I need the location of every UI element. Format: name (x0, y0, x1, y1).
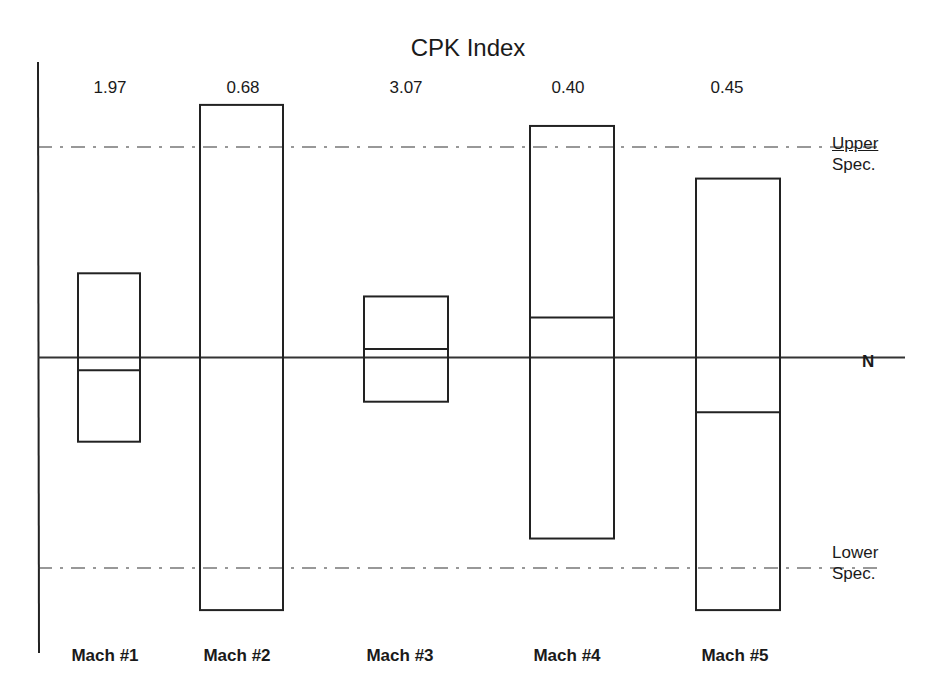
cpk-value-mach-2: 0.68 (226, 78, 259, 98)
category-label-mach-4: Mach #4 (533, 646, 600, 666)
cpk-chart: CPK Index 1.970.683.070.400.45 Mach #1Ma… (0, 0, 936, 692)
cpk-value-mach-4: 0.40 (551, 78, 584, 98)
category-label-mach-3: Mach #3 (366, 646, 433, 666)
cpk-value-mach-3: 3.07 (389, 78, 422, 98)
category-label-mach-1: Mach #1 (71, 646, 138, 666)
category-label-mach-2: Mach #2 (203, 646, 270, 666)
upper-spec-label: Upper Spec. (832, 133, 878, 175)
box-mach-5 (696, 179, 780, 611)
nominal-label: N (862, 352, 874, 372)
plot-area (0, 0, 936, 692)
cpk-value-mach-1: 1.97 (93, 78, 126, 98)
category-label-mach-5: Mach #5 (701, 646, 768, 666)
box-mach-4 (530, 126, 614, 539)
cpk-value-mach-5: 0.45 (710, 78, 743, 98)
lower-spec-label: Lower Spec. (832, 542, 878, 584)
chart-title: CPK Index (0, 34, 936, 62)
